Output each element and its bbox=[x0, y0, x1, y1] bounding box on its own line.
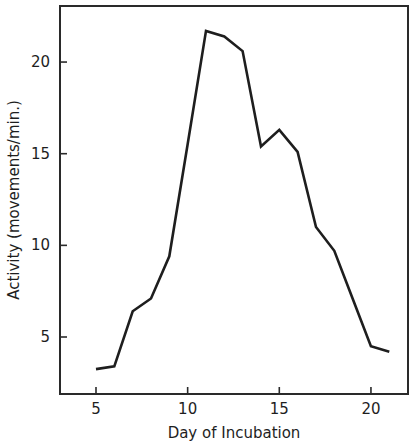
x-axis-label: Day of Incubation bbox=[168, 424, 301, 442]
x-tick-label: 10 bbox=[178, 400, 197, 418]
x-tick-label: 5 bbox=[91, 400, 101, 418]
y-tick-label: 5 bbox=[40, 328, 50, 346]
y-axis-label: Activity (movements/min.) bbox=[5, 100, 23, 300]
y-tick-label: 20 bbox=[31, 53, 50, 71]
y-tick-label: 10 bbox=[31, 236, 50, 254]
plot-frame bbox=[60, 6, 408, 394]
y-tick-label: 15 bbox=[31, 145, 50, 163]
x-tick-label: 15 bbox=[270, 400, 289, 418]
line-chart: 5101520 5101520 Day of Incubation Activi… bbox=[0, 0, 415, 447]
activity-line bbox=[96, 31, 389, 369]
y-axis-ticks: 5101520 bbox=[31, 53, 67, 346]
x-tick-label: 20 bbox=[361, 400, 380, 418]
x-axis-ticks: 5101520 bbox=[91, 387, 380, 418]
